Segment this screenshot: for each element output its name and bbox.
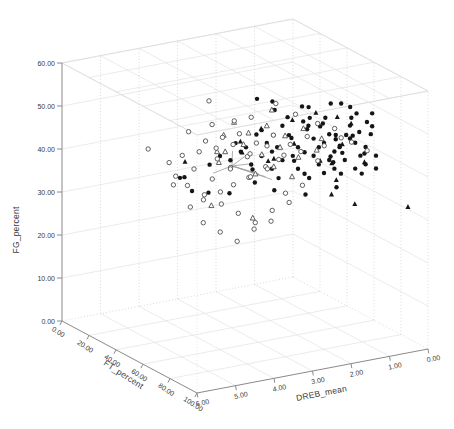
axis-tick [428,349,429,353]
point-filled-circle [370,124,374,128]
point-filled-triangle [405,204,410,209]
scatter-points [146,97,410,244]
grid-line [293,105,428,177]
grid-left-wall [62,26,293,313]
point-filled-circle [344,133,348,137]
point-open-triangle [271,164,276,169]
point-filled-triangle [238,139,243,144]
point-open-circle [228,167,232,171]
point-open-circle [167,160,171,164]
point-open-circle [322,144,326,148]
point-filled-circle [374,166,378,170]
point-filled-triangle [290,117,295,122]
point-filled-circle [300,104,304,108]
grid-line [216,34,351,106]
point-filled-circle [307,176,311,180]
tick-label: 20.00 [76,339,95,354]
point-open-circle [349,140,353,144]
point-open-circle [277,157,281,161]
grid-line [101,56,236,128]
tick-label: 30.00 [37,189,55,196]
tick-label: 6.00 [195,398,210,407]
point-filled-circle [301,119,305,123]
point-filled-circle [369,132,373,136]
point-filled-circle [249,162,253,166]
point-filled-circle [339,171,343,175]
axis-tick [236,386,237,390]
tick-label: 50.00 [37,103,55,110]
point-filled-circle [332,149,336,153]
point-open-circle [207,99,211,103]
point-open-circle [365,148,369,152]
point-open-circle [252,227,256,231]
point-filled-circle [178,176,182,180]
point-open-triangle [301,126,306,131]
point-filled-circle [331,160,335,164]
point-filled-circle [291,154,295,158]
point-open-circle [197,150,201,154]
point-open-circle [237,132,241,136]
point-filled-triangle [271,156,276,161]
point-open-circle [210,122,214,126]
grid-line [293,234,428,306]
point-open-circle [203,139,207,143]
point-open-circle [288,142,292,146]
axis-tick [274,378,275,382]
grid-line [178,41,313,113]
tick-label: 5.00 [234,390,249,399]
point-filled-circle [302,172,306,176]
point-filled-circle [340,151,344,155]
point-open-circle [339,136,343,140]
point-open-circle [283,191,287,195]
axis-tick [313,371,314,375]
figure-canvas: 0.0010.0020.0030.0040.0050.0060.000.0020… [0,0,454,429]
point-open-circle [248,152,252,156]
point-filled-circle [254,132,258,136]
point-open-circle [180,153,184,157]
point-filled-circle [365,120,369,124]
point-open-circle [332,126,336,130]
point-filled-triangle [334,177,339,182]
point-filled-circle [353,166,357,170]
point-filled-circle [332,166,336,170]
grid-line [293,191,428,263]
point-open-triangle [259,152,264,157]
point-open-circle [235,239,239,243]
point-open-circle [219,202,223,206]
point-filled-circle [270,149,274,153]
3d-scatter-chart: 0.0010.0020.0030.0040.0050.0060.000.0020… [0,0,454,429]
point-open-circle [287,200,291,204]
point-open-triangle [296,155,301,160]
point-filled-circle [348,123,352,127]
point-filled-circle [253,180,257,184]
tick-label: 2.00 [349,368,364,377]
tick-label: 3.00 [311,376,326,385]
point-filled-circle [285,115,289,119]
point-open-circle [300,183,304,187]
tick-label: 1.00 [388,361,403,370]
grid-line [216,292,351,364]
point-filled-circle [337,145,341,149]
point-filled-circle [334,133,338,137]
point-open-circle [299,149,303,153]
point-open-circle [270,208,274,212]
grid-line [139,306,274,378]
point-filled-triangle [266,158,271,163]
point-open-circle [174,174,178,178]
tick-label: 0.00 [51,325,66,338]
axis-tick [114,350,116,354]
point-filled-circle [370,111,374,115]
point-filled-circle [182,175,186,179]
point-open-circle [218,230,222,234]
point-open-triangle [283,133,288,138]
point-open-circle [271,133,275,137]
point-filled-circle [334,185,338,189]
grid-line [293,148,428,220]
point-open-circle [210,177,214,181]
point-filled-triangle [329,192,334,197]
point-filled-circle [354,111,358,115]
point-open-circle [282,153,286,157]
grid-top-face [62,19,428,135]
grid-line [293,62,428,134]
tick-label: 40.00 [37,146,55,153]
